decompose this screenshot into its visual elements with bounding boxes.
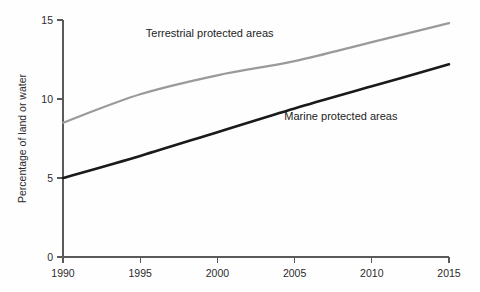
x-tick-label: 2005: [283, 267, 307, 279]
series-annotations: Terrestrial protected areasMarine protec…: [146, 27, 398, 121]
x-tick-label: 2000: [206, 267, 230, 279]
x-tick-label: 2010: [360, 267, 384, 279]
line-chart: 051015 Percentage of land or water 19901…: [0, 0, 480, 292]
series-label-marine: Marine protected areas: [284, 110, 398, 122]
y-tick-label: 5: [47, 172, 53, 184]
x-axis-tick-labels: 199019952000200520102015: [51, 267, 461, 279]
y-tick-label: 0: [47, 251, 53, 263]
x-axis-group: 199019952000200520102015: [51, 257, 461, 279]
chart-container: 051015 Percentage of land or water 19901…: [0, 0, 480, 292]
x-axis-ticks: [63, 257, 449, 263]
x-tick-label: 2015: [437, 267, 461, 279]
y-axis-title: Percentage of land or water: [16, 74, 28, 203]
x-tick-label: 1990: [51, 267, 75, 279]
y-axis-tick-labels: 051015: [41, 14, 53, 263]
y-tick-label: 10: [41, 93, 53, 105]
y-tick-label: 15: [41, 14, 53, 26]
series-label-terrestrial: Terrestrial protected areas: [146, 27, 274, 39]
x-tick-label: 1995: [129, 267, 153, 279]
y-axis-group: 051015 Percentage of land or water: [16, 14, 63, 263]
series-lines: [63, 23, 449, 178]
y-axis-ticks: [57, 20, 63, 257]
